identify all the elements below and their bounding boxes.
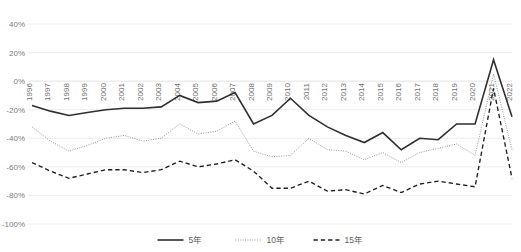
x-tick-label: 2000 (99, 83, 108, 101)
x-tick-label: 2002 (136, 83, 145, 101)
x-tick-label: 2013 (339, 83, 348, 101)
x-tick-label: 2012 (320, 83, 329, 101)
x-tick-label: 1996 (25, 83, 34, 101)
x-tick-label: 2018 (431, 83, 440, 101)
x-tick-label: 2011 (302, 83, 311, 101)
y-tick-label: 20% (9, 49, 25, 58)
x-tick-label: 2003 (154, 83, 163, 101)
series-line-1 (32, 60, 512, 150)
legend-label-3[interactable]: 15年 (345, 235, 363, 245)
x-tick-label: 2001 (117, 83, 126, 101)
y-tick-label: -60% (6, 163, 25, 172)
data-series-group (32, 60, 512, 194)
gridlines (28, 24, 512, 224)
x-tick-label: 2016 (394, 83, 403, 101)
x-tick-label: 2020 (468, 83, 477, 101)
legend-label-2[interactable]: 10年 (267, 235, 285, 245)
series-line-3 (32, 88, 512, 194)
x-tick-label: 1998 (62, 83, 71, 101)
x-tick-label: 2015 (376, 83, 385, 101)
x-tick-label: 2008 (247, 83, 256, 101)
x-tick-label: 2006 (210, 83, 219, 101)
x-tick-label: 1999 (80, 83, 89, 101)
chart-container: 40%20%0%-20%-40%-60%-80%-100% 1996199719… (0, 0, 521, 252)
x-tick-label: 2005 (191, 83, 200, 101)
x-tick-label: 1997 (43, 83, 52, 101)
y-tick-label: 40% (9, 20, 25, 29)
x-tick-label: 2014 (357, 83, 366, 101)
x-axis-tick-labels: 1996199719981999200020012002200320042005… (25, 83, 514, 101)
line-chart: 40%20%0%-20%-40%-60%-80%-100% 1996199719… (0, 0, 521, 252)
x-tick-label: 2009 (265, 83, 274, 101)
y-tick-label: 0% (13, 77, 25, 86)
y-tick-label: -80% (6, 191, 25, 200)
y-tick-label: -40% (6, 134, 25, 143)
x-tick-label: 2019 (450, 83, 459, 101)
y-tick-label: -20% (6, 106, 25, 115)
y-tick-label: -100% (2, 220, 25, 229)
legend-label-1[interactable]: 5年 (189, 235, 203, 245)
x-tick-label: 2007 (228, 83, 237, 101)
x-tick-label: 2017 (413, 83, 422, 101)
y-axis-tick-labels: 40%20%0%-20%-40%-60%-80%-100% (2, 20, 25, 229)
chart-legend: 5年10年15年 (158, 235, 363, 245)
